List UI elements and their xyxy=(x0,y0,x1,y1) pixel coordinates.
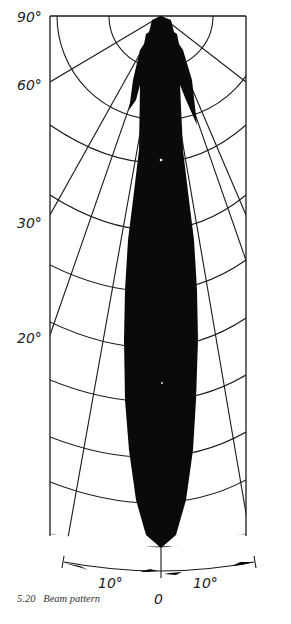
beam-marker-dot xyxy=(161,382,163,384)
label-left-10-degrees: 10° xyxy=(98,576,123,590)
figure-caption: 5.20 Beam pattern xyxy=(17,594,100,605)
angular-scale xyxy=(62,548,256,578)
caption-text: Beam pattern xyxy=(43,593,100,604)
label-60-degrees: 60° xyxy=(17,78,42,92)
label-90-degrees: 90° xyxy=(17,10,42,24)
beam-pattern-diagram xyxy=(0,0,291,624)
beam-marker-dot xyxy=(160,159,163,162)
label-30-degrees: 30° xyxy=(17,216,42,230)
label-right-10-degrees: 10° xyxy=(193,576,218,590)
label-20-degrees: 20° xyxy=(17,331,42,345)
beam-lobe xyxy=(124,16,198,548)
caption-number: 5.20 xyxy=(17,593,35,604)
label-zero: 0 xyxy=(154,592,163,606)
